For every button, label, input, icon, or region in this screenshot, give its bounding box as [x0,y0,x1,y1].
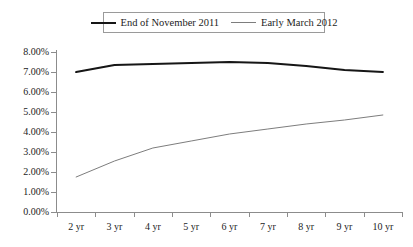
x-axis-tick [364,212,365,217]
x-axis-tick [402,212,403,217]
x-axis-tick [210,212,211,217]
y-axis-tick-label: 0.00% [1,207,49,217]
y-axis-tick [51,112,56,113]
plot-area [57,52,402,212]
x-axis-tick [57,212,58,217]
x-axis-tick-label: 6 yr [210,221,250,232]
legend-label: End of November 2011 [121,17,219,28]
x-axis-tick-label: 4 yr [133,221,173,232]
x-axis-tick-label: 2 yr [56,221,96,232]
x-axis-tick [287,212,288,217]
y-axis-tick-label: 3.00% [1,147,49,157]
x-axis-tick [95,212,96,217]
legend-entry-early-march-2012: Early March 2012 [225,17,343,28]
y-axis-tick [51,92,56,93]
y-axis-tick [51,172,56,173]
y-axis-tick-label: 5.00% [1,107,49,117]
legend-line-swatch-icon [231,22,256,23]
series-line-end-of-november-2011 [76,62,383,72]
x-axis-line [56,212,403,213]
x-axis-tick [134,212,135,217]
legend-entry-end-of-november-2011: End of November 2011 [85,17,225,28]
y-axis-tick [51,132,56,133]
x-axis-tick-label: 3 yr [95,221,135,232]
legend-line-swatch-icon [91,22,116,24]
y-axis-tick [51,192,56,193]
y-axis-tick [51,72,56,73]
y-axis-tick [51,52,56,53]
x-axis-tick-label: 9 yr [325,221,365,232]
y-axis-tick [51,152,56,153]
legend-label: Early March 2012 [261,17,337,28]
x-axis-tick [172,212,173,217]
x-axis-tick-label: 10 yr [363,221,403,232]
y-axis-tick-label: 8.00% [1,47,49,57]
y-axis-tick-label: 2.00% [1,167,49,177]
chart-legend: End of November 2011 Early March 2012 [103,12,325,33]
x-axis-tick [325,212,326,217]
line-chart: End of November 2011 Early March 2012 8.… [0,0,413,247]
y-axis-tick-label: 7.00% [1,67,49,77]
series-line-early-march-2012 [76,115,383,177]
y-axis-tick [51,212,56,213]
x-axis-tick-label: 8 yr [286,221,326,232]
x-axis-tick-label: 7 yr [248,221,288,232]
y-axis-tick-label: 1.00% [1,187,49,197]
y-axis-tick-label: 4.00% [1,127,49,137]
y-axis-tick-label: 6.00% [1,87,49,97]
x-axis-tick-label: 5 yr [171,221,211,232]
series-lines [57,52,402,212]
x-axis-tick [249,212,250,217]
